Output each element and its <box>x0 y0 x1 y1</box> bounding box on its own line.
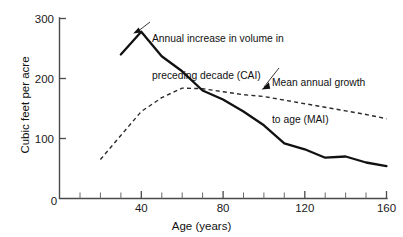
annotation-cai: Annual increase in volume in preceding d… <box>152 9 284 107</box>
annotation-mai-line1: Mean annual growth <box>272 77 365 89</box>
x-tick-label-160: 160 <box>377 202 396 214</box>
y-tick-label-100: 100 <box>35 133 54 145</box>
annotation-mai-line2: to age (MAI) <box>272 114 365 126</box>
x-axis-title-text: Age (years) <box>172 220 231 232</box>
y-axis-title-text: Cubic feet per acre <box>19 56 31 153</box>
x-tick-label-40: 40 <box>135 202 148 214</box>
chart-container: 300 200 100 0 40 80 120 160 Annual incre… <box>0 0 403 237</box>
x-tick-label-120: 120 <box>295 202 314 214</box>
y-axis-ticks <box>60 19 67 139</box>
y-tick-label-200: 200 <box>35 73 54 85</box>
y-tick-label-300: 300 <box>35 13 54 25</box>
annotation-cai-line2: preceding decade (CAI) <box>152 70 284 82</box>
x-axis-title: Age (years) <box>0 216 403 234</box>
annotation-cai-line1: Annual increase in volume in <box>152 33 284 45</box>
y-axis-title: Cubic feet per acre <box>15 35 33 175</box>
y-tick-label-0: 0 <box>51 195 57 207</box>
x-tick-label-80: 80 <box>217 202 230 214</box>
annotation-mai: Mean annual growth to age (MAI) <box>272 53 365 151</box>
